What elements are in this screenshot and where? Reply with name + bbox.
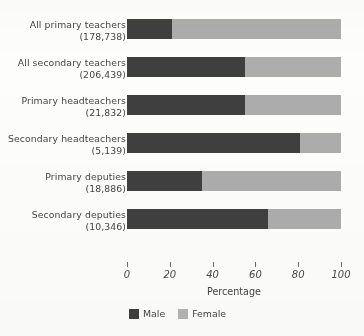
category-label-line1: All secondary teachers [0,57,126,69]
category-label-line2: (18,886) [0,183,126,195]
bar-segment-male [127,171,202,191]
x-axis: 020406080100 [127,261,341,262]
bar-segment-male [127,19,172,39]
category-label-line2: (206,439) [0,69,126,81]
x-axis-tick [213,262,214,267]
bar-segment-female [202,171,341,191]
bar-segment-male [127,95,245,115]
legend-swatch-male-icon [129,309,139,319]
chart-legend: Male Female [129,308,234,319]
category-label-line2: (10,346) [0,221,126,233]
x-axis-title-text: Percentage [207,286,261,297]
category-label-line1: All primary teachers [0,19,126,31]
category-label: Primary headteachers (21,832) [0,95,126,118]
legend-item-male: Male [129,308,165,319]
x-axis-title: Percentage [0,286,364,297]
bar-segment-female [300,133,341,153]
x-axis-tick-label: 40 [206,269,219,280]
category-label-line1: Primary deputies [0,171,126,183]
legend-item-female: Female [178,308,226,319]
bar-segment-female [245,95,341,115]
x-axis-tick-label: 100 [331,269,350,280]
x-axis-tick-label: 60 [249,269,262,280]
bar-segment-female [172,19,341,39]
category-label-line1: Secondary headteachers [0,133,126,145]
chart-container: All primary teachers (178,738) All secon… [0,0,364,336]
category-label: All primary teachers (178,738) [0,19,126,42]
legend-swatch-female-icon [178,309,188,319]
category-label: All secondary teachers (206,439) [0,57,126,80]
bar-row [127,19,341,39]
bar-segment-female [245,57,341,77]
category-label-line2: (178,738) [0,31,126,43]
bar-row [127,133,341,153]
x-axis-tick-label: 80 [292,269,305,280]
bar-row [127,95,341,115]
category-label: Primary deputies (18,886) [0,171,126,194]
category-label-line1: Primary headteachers [0,95,126,107]
bar-row [127,171,341,191]
category-label-line1: Secondary deputies [0,209,126,221]
category-label-line2: (5,139) [0,145,126,157]
x-axis-tick-label: 0 [124,269,130,280]
x-axis-tick [255,262,256,267]
bar-row [127,57,341,77]
category-label: Secondary deputies (10,346) [0,209,126,232]
category-label-line2: (21,832) [0,107,126,119]
legend-label-female: Female [192,308,226,319]
x-axis-tick [298,262,299,267]
x-axis-tick [170,262,171,267]
x-axis-tick-label: 20 [163,269,176,280]
bar-segment-male [127,57,245,77]
bar-segment-female [268,209,341,229]
legend-label-male: Male [143,308,165,319]
x-axis-tick [127,262,128,267]
category-label: Secondary headteachers (5,139) [0,133,126,156]
bar-segment-male [127,133,300,153]
bar-segment-male [127,209,268,229]
x-axis-tick [341,262,342,267]
bar-row [127,209,341,229]
